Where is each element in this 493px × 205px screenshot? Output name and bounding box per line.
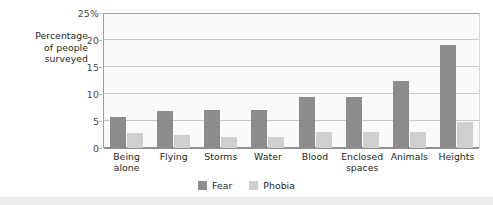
legend-swatch-fear-icon xyxy=(198,181,207,190)
bar-phobia xyxy=(316,132,332,148)
bar-chart-figure: Percentage of people surveyed 25%2015105… xyxy=(0,0,493,205)
bar-group xyxy=(386,13,433,148)
y-axis-tick-mark xyxy=(99,121,102,122)
bar-phobia xyxy=(174,135,190,149)
y-axis-tick-label: 15 xyxy=(63,62,99,73)
x-axis-label: Storms xyxy=(197,151,244,162)
y-axis-tick-label: 5 xyxy=(63,116,99,127)
bar-group xyxy=(150,13,197,148)
y-axis-tick-mark xyxy=(99,67,102,68)
x-axis-label: Enclosedspaces xyxy=(339,151,386,173)
bar-fear xyxy=(110,117,126,148)
bar-group xyxy=(433,13,480,148)
bar-fear xyxy=(393,81,409,148)
bar-group xyxy=(197,13,244,148)
bar-group xyxy=(339,13,386,148)
page-bottom-band xyxy=(0,197,493,205)
legend-item-fear[interactable]: Fear xyxy=(198,180,232,191)
y-axis-tick-mark xyxy=(99,148,102,149)
x-axis-label: Blood xyxy=(292,151,339,162)
x-axis-label: Water xyxy=(244,151,291,162)
bar-fear xyxy=(440,45,456,148)
bar-phobia xyxy=(410,132,426,148)
bar-fear xyxy=(299,97,315,148)
y-axis-tick-label: 0 xyxy=(63,143,99,154)
y-axis-ticks: 25%20151050 xyxy=(60,13,99,148)
bar-fear xyxy=(346,97,362,148)
y-axis-tick-label: 25% xyxy=(63,8,99,19)
legend-swatch-phobia-icon xyxy=(249,181,258,190)
bar-phobia xyxy=(221,137,237,148)
y-axis-tick-mark xyxy=(99,40,102,41)
x-axis-label: Beingalone xyxy=(103,151,150,173)
x-axis-label: Flying xyxy=(150,151,197,162)
bar-fear xyxy=(157,111,173,148)
bar-series-container xyxy=(103,13,480,148)
bar-group xyxy=(103,13,150,148)
x-axis-label: Animals xyxy=(386,151,433,162)
bar-group xyxy=(244,13,291,148)
x-axis-category-labels: BeingaloneFlyingStormsWaterBloodEnclosed… xyxy=(103,151,480,177)
bar-fear xyxy=(204,110,220,148)
bar-phobia xyxy=(457,122,473,148)
y-axis-tick-mark xyxy=(99,94,102,95)
bar-phobia xyxy=(268,137,284,148)
bar-phobia xyxy=(363,132,379,148)
chart-legend: FearPhobia xyxy=(0,180,493,191)
y-axis-tick-label: 20 xyxy=(63,35,99,46)
legend-item-phobia[interactable]: Phobia xyxy=(249,180,295,191)
y-axis-tick-mark xyxy=(99,13,102,14)
y-axis-tick-label: 10 xyxy=(63,89,99,100)
bar-fear xyxy=(251,110,267,148)
legend-label: Fear xyxy=(212,180,232,191)
bar-group xyxy=(292,13,339,148)
legend-label: Phobia xyxy=(263,180,295,191)
x-axis-label: Heights xyxy=(433,151,480,162)
bar-phobia xyxy=(127,133,143,148)
